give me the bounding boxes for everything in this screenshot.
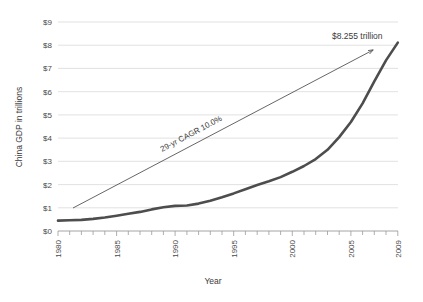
y-tick-label-0: $0	[43, 227, 52, 236]
y-tick-label-2: $2	[43, 181, 52, 190]
chart-container: $9 $8 $7 $6 $5 $4 $3 $2 $1 $0 1980 1985 …	[0, 0, 423, 302]
y-axis-title: China GDP in trillions	[14, 87, 24, 168]
y-tick-label-6: $6	[43, 88, 52, 97]
x-tick-label-2005: 2005	[347, 239, 356, 257]
x-tick-label-1995: 1995	[230, 239, 239, 257]
y-tick-label-8: $8	[43, 41, 52, 50]
y-tick-label-9: $9	[43, 18, 52, 27]
x-tick-label-1990: 1990	[171, 239, 180, 257]
x-tick-label-2009: 2009	[394, 239, 403, 257]
x-tick-label-1980: 1980	[54, 239, 63, 257]
x-tick-label-1985: 1985	[113, 239, 122, 257]
y-tick-label-1: $1	[43, 204, 52, 213]
x-axis-ticks	[58, 231, 398, 236]
y-tick-label-7: $7	[43, 64, 52, 73]
y-tick-label-3: $3	[43, 157, 52, 166]
y-tick-label-5: $5	[43, 111, 52, 120]
end-value-label: $8.255 trillion	[332, 31, 383, 41]
y-tick-label-4: $4	[43, 134, 52, 143]
gdp-line-chart: $9 $8 $7 $6 $5 $4 $3 $2 $1 $0 1980 1985 …	[0, 0, 423, 302]
x-axis-tick-labels: 1980 1985 1990 1995 2000 2005 2009	[54, 239, 403, 257]
x-tick-label-2000: 2000	[288, 239, 297, 257]
y-axis-tick-labels: $9 $8 $7 $6 $5 $4 $3 $2 $1 $0	[43, 18, 52, 236]
x-axis-title: Year	[204, 276, 221, 286]
